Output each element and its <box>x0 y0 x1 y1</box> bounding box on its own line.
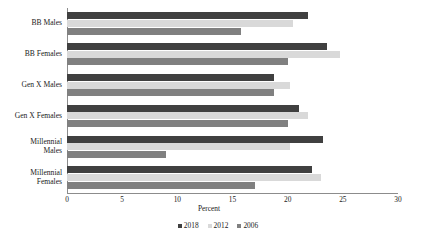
bar-row <box>67 82 398 89</box>
legend-swatch-icon <box>178 224 182 228</box>
bar-row <box>67 151 398 158</box>
bar-row <box>67 136 398 143</box>
bar-2012 <box>67 174 321 181</box>
category-label: Gen X Males <box>0 81 62 90</box>
legend-item: 2018 <box>178 221 199 230</box>
bar-2018 <box>67 166 312 173</box>
legend-item: 2006 <box>237 221 258 230</box>
x-tick-label: 5 <box>120 195 124 204</box>
bar-row <box>67 89 398 96</box>
bar-row <box>67 51 398 58</box>
bar-row <box>67 174 398 181</box>
bar-row <box>67 74 398 81</box>
bar-2012 <box>67 112 308 119</box>
x-tick-label: 15 <box>229 195 236 204</box>
bar-row <box>67 12 398 19</box>
bar-row <box>67 105 398 112</box>
bar-2012 <box>67 82 290 89</box>
bar-2012 <box>67 143 290 150</box>
bar-2018 <box>67 105 299 112</box>
bar-2006 <box>67 28 241 35</box>
category-label: Millennial Females <box>16 169 62 186</box>
bar-row <box>67 28 398 35</box>
bar-2006 <box>67 58 288 65</box>
legend-label: 2012 <box>214 221 229 230</box>
legend-item: 2012 <box>208 221 229 230</box>
x-axis-title-text: Percent <box>198 204 220 213</box>
bar-row <box>67 182 398 189</box>
x-tick-label: 0 <box>65 195 69 204</box>
bar-2012 <box>67 20 293 27</box>
x-tick-label: 10 <box>174 195 181 204</box>
legend-label: 2018 <box>184 221 199 230</box>
bar-2006 <box>67 182 255 189</box>
chart-legend: 201820122006 <box>0 221 436 230</box>
bar-row <box>67 143 398 150</box>
bar-group <box>67 136 398 158</box>
x-axis-line <box>67 193 398 194</box>
plot-area <box>67 8 398 193</box>
bar-2018 <box>67 43 327 50</box>
bar-group <box>67 166 398 188</box>
bar-2018 <box>67 136 323 143</box>
bar-row <box>67 43 398 50</box>
legend-label: 2006 <box>243 221 258 230</box>
category-label: Millennial Males <box>16 138 62 155</box>
bar-group <box>67 12 398 34</box>
x-tick-label: 25 <box>339 195 346 204</box>
bar-2006 <box>67 151 166 158</box>
bar-2006 <box>67 89 274 96</box>
bar-group <box>67 43 398 65</box>
bar-2018 <box>67 74 274 81</box>
category-label: BB Males <box>0 19 62 28</box>
bar-group <box>67 105 398 127</box>
category-label: Gen X Females <box>0 112 62 121</box>
bar-row <box>67 20 398 27</box>
legend-swatch-icon <box>237 224 241 228</box>
category-label: BB Females <box>0 50 62 59</box>
bar-row <box>67 120 398 127</box>
bar-group <box>67 74 398 96</box>
legend-swatch-icon <box>208 224 212 228</box>
bar-2018 <box>67 12 308 19</box>
bar-2012 <box>67 51 340 58</box>
bar-chart: BB MalesBB FemalesGen X MalesGen X Femal… <box>0 0 436 243</box>
bar-row <box>67 58 398 65</box>
bar-row <box>67 166 398 173</box>
x-tick-label: 20 <box>284 195 291 204</box>
bar-row <box>67 112 398 119</box>
x-axis-title: Percent <box>0 204 436 213</box>
x-tick-label: 30 <box>394 195 401 204</box>
bar-2006 <box>67 120 288 127</box>
